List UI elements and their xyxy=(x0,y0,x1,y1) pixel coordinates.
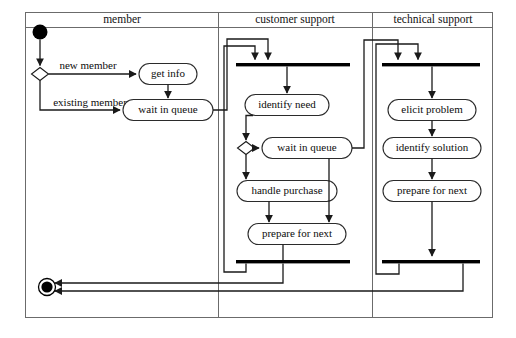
flow-ts-join-loop-stub xyxy=(376,256,399,274)
action-label-prepare-for-next-cs: prepare for next xyxy=(262,227,332,239)
join-bar-technical-support xyxy=(382,260,480,263)
action-label-wait-in-queue-cs: wait in queue xyxy=(277,141,336,153)
fork-bar-customer-support xyxy=(236,63,350,66)
lane-title-customer-support: customer support xyxy=(255,13,335,26)
flow-cs-join-to-final xyxy=(55,263,283,283)
action-label-handle-purchase: handle purchase xyxy=(251,184,322,196)
uml-activity-diagram: member customer support technical suppor… xyxy=(0,0,516,338)
flow-identify-need-to-decision xyxy=(246,116,253,141)
decision-customer-support xyxy=(238,142,255,155)
flow-cs-to-ts-fork xyxy=(352,40,398,148)
activity-diagram-canvas: member customer support technical suppor… xyxy=(0,0,516,338)
action-label-get-info: get info xyxy=(151,67,185,79)
join-bar-customer-support xyxy=(236,260,350,263)
lane-title-member: member xyxy=(103,13,141,25)
action-label-identify-need: identify need xyxy=(258,98,316,110)
action-label-elicit-problem: elicit problem xyxy=(401,103,463,115)
decision-member-type xyxy=(32,68,49,81)
action-label-wait-in-queue-member: wait in queue xyxy=(138,103,197,115)
edge-label-existing-member: existing member xyxy=(53,96,127,108)
initial-node xyxy=(33,25,48,40)
lane-title-technical-support: technical support xyxy=(394,13,474,26)
action-label-identify-solution: identify solution xyxy=(396,141,469,153)
final-node-dot xyxy=(41,281,52,292)
edge-label-new-member: new member xyxy=(59,59,116,71)
flow-ts-join-to-final xyxy=(55,263,463,291)
action-label-prepare-for-next-ts: prepare for next xyxy=(397,184,467,196)
flow-cs-join-loop-stub xyxy=(224,256,246,272)
fork-bar-technical-support xyxy=(382,63,480,66)
